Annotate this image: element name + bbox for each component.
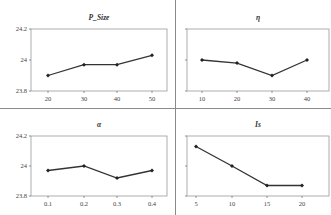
plot-frame [31,29,167,91]
x-tick-label: 30 [269,95,276,102]
data-point-marker [82,164,86,168]
data-point-marker [46,169,50,173]
data-point-marker [115,176,119,180]
data-line [48,55,152,75]
data-point-marker [46,74,50,78]
y-tick-label: 24 [21,162,28,169]
chart-title: Is [254,120,261,129]
y-tick-label: 24 [21,56,28,63]
y-tick-label: 23.8 [16,87,27,94]
chart-eta: η10203040 [176,0,331,108]
chart-title: η [256,13,260,22]
data-point-marker [150,169,154,173]
data-point-marker [115,63,119,67]
x-tick-label: 10 [229,200,236,207]
x-tick-label: 10 [199,95,206,102]
x-tick-label: 5 [194,200,197,207]
chart-title: α [97,120,102,129]
x-tick-label: 15 [264,200,271,207]
data-point-marker [270,74,274,78]
data-point-marker [305,58,309,62]
y-tick-label: 24.2 [16,132,27,139]
plot-frame [31,136,167,196]
y-tick-label: 24.2 [16,25,27,32]
chart-p-size: P_Size2030405024.22423.8 [0,0,175,108]
plot-frame [187,136,329,196]
x-tick-label: 20 [45,95,52,102]
x-tick-label: 0.2 [80,200,88,207]
x-tick-label: 50 [149,95,156,102]
x-tick-label: 0.3 [113,200,121,207]
chart-is: Is5101520 [176,109,331,215]
x-tick-label: 20 [299,200,306,207]
x-tick-label: 20 [234,95,241,102]
x-tick-label: 0.1 [44,200,52,207]
x-tick-label: 40 [114,95,121,102]
data-line [48,166,152,178]
data-point-marker [235,61,239,65]
data-point-marker [150,53,154,57]
x-tick-label: 40 [304,95,311,102]
x-tick-label: 30 [81,95,88,102]
x-tick-label: 0.4 [148,200,157,207]
y-tick-label: 23.8 [16,192,27,199]
data-point-marker [200,58,204,62]
data-point-marker [300,184,304,188]
chart-alpha: α0.10.20.30.424.22423.8 [0,109,175,215]
chart-title: P_Size [89,13,111,22]
data-point-marker [82,63,86,67]
data-line [202,60,307,76]
data-line [196,147,302,186]
